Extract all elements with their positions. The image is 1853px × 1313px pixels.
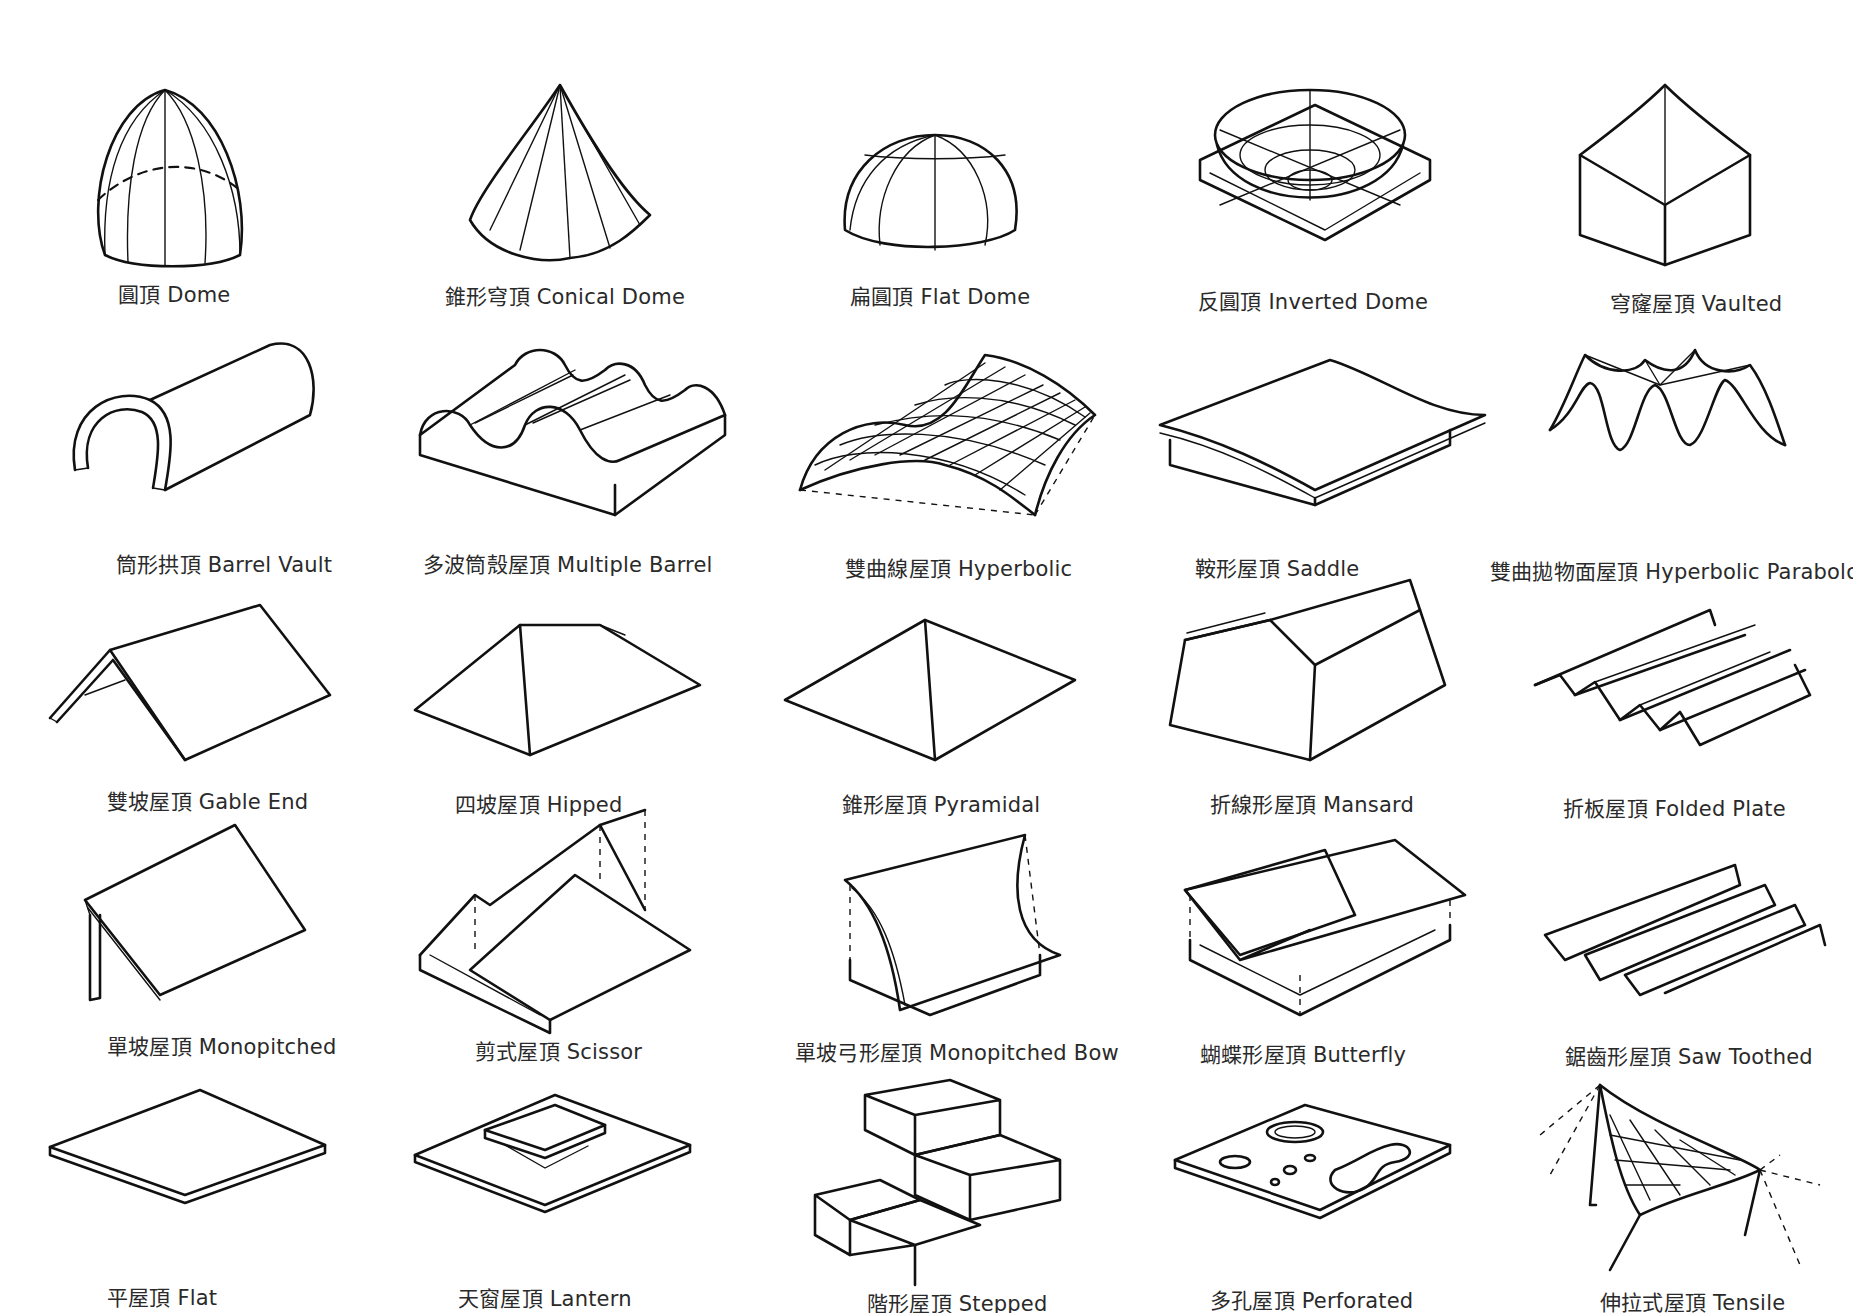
monopitched-bow-icon: [840, 830, 1100, 1020]
roof-item-perforated: 多孔屋頂 Perforated: [1170, 1100, 1540, 1310]
roof-label: 多波筒殼屋頂 Multiple Barrel: [423, 548, 713, 578]
roof-label: 錐形穹頂 Conical Dome: [445, 280, 685, 310]
tensile-roof-icon: [1530, 1075, 1853, 1275]
roof-item-butterfly: 蝴蝶形屋頂 Butterfly: [1180, 835, 1550, 1060]
roof-item-lantern: 天窗屋頂 Lantern: [410, 1090, 780, 1310]
roof-label: 剪式屋頂 Scissor: [475, 1035, 642, 1065]
hipped-roof-icon: [410, 605, 710, 765]
roof-types-chart: 圓頂 Dome 錐形穹頂 Conical Dome 扁圓頂 Flat Dome: [0, 0, 1853, 1313]
roof-item-monopitched: 單坡屋頂 Monopitched: [80, 820, 450, 1060]
saw-toothed-roof-icon: [1540, 865, 1830, 995]
roof-item-barrel-vault: 筒形拱頂 Barrel Vault: [70, 340, 440, 570]
roof-label: 單坡屋頂 Monopitched: [107, 1030, 337, 1060]
roof-item-flat-dome: 扁圓頂 Flat Dome: [835, 120, 1205, 310]
roof-label: 蝴蝶形屋頂 Butterfly: [1200, 1038, 1406, 1068]
roof-label: 雙曲線屋頂 Hyperbolic: [845, 552, 1072, 582]
conical-dome-icon: [460, 80, 700, 280]
inverted-dome-icon: [1195, 85, 1455, 285]
roof-item-dome: 圓頂 Dome: [80, 80, 450, 310]
roof-label: 穹窿屋頂 Vaulted: [1610, 287, 1782, 317]
butterfly-roof-icon: [1180, 835, 1470, 1015]
multiple-barrel-icon: [415, 345, 735, 515]
gable-roof-icon: [45, 600, 345, 770]
roof-item-vaulted: 穹窿屋頂 Vaulted: [1570, 80, 1853, 310]
roof-item-flat: 平屋頂 Flat: [45, 1085, 415, 1310]
roof-label: 雙坡屋頂 Gable End: [107, 785, 308, 815]
roof-item-conical-dome: 錐形穹頂 Conical Dome: [460, 80, 830, 310]
roof-item-inverted-dome: 反圓頂 Inverted Dome: [1195, 85, 1565, 315]
roof-item-hipped: 四坡屋頂 Hipped: [410, 605, 780, 815]
roof-item-stepped: 階形屋頂 Stepped: [810, 1075, 1180, 1310]
roof-label: 折板屋頂 Folded Plate: [1563, 792, 1786, 822]
roof-item-saw-toothed: 鋸齒形屋頂 Saw Toothed: [1540, 865, 1853, 1060]
roof-label: 筒形拱頂 Barrel Vault: [116, 548, 332, 578]
roof-item-pyramidal: 錐形屋頂 Pyramidal: [780, 615, 1150, 815]
roof-label: 平屋頂 Flat: [107, 1281, 217, 1311]
dome-icon: [80, 80, 320, 280]
vaulted-roof-icon: [1570, 80, 1810, 280]
roof-item-hyperbolic: 雙曲線屋頂 Hyperbolic: [795, 345, 1165, 570]
roof-label: 多孔屋頂 Perforated: [1210, 1284, 1413, 1313]
roof-label: 鋸齒形屋頂 Saw Toothed: [1565, 1040, 1813, 1070]
roof-item-folded-plate: 折板屋頂 Folded Plate: [1530, 610, 1853, 815]
roof-label: 圓頂 Dome: [118, 278, 230, 308]
flat-roof-icon: [45, 1085, 335, 1205]
monopitched-roof-icon: [80, 820, 320, 1000]
folded-plate-icon: [1530, 610, 1820, 750]
roof-item-saddle: 鞍形屋頂 Saddle: [1160, 355, 1530, 570]
lantern-roof-icon: [410, 1090, 700, 1210]
roof-label: 折線形屋頂 Mansard: [1210, 788, 1414, 818]
flat-dome-icon: [835, 120, 1075, 280]
roof-label: 天窗屋頂 Lantern: [458, 1282, 632, 1312]
scissor-roof-icon: [415, 805, 705, 1025]
roof-label: 反圓頂 Inverted Dome: [1198, 285, 1428, 315]
roof-label: 階形屋頂 Stepped: [867, 1287, 1047, 1313]
roof-label: 錐形屋頂 Pyramidal: [842, 788, 1040, 818]
saddle-roof-icon: [1160, 355, 1500, 505]
roof-item-multiple-barrel: 多波筒殼屋頂 Multiple Barrel: [415, 345, 785, 570]
pyramidal-roof-icon: [780, 615, 1080, 765]
mansard-roof-icon: [1165, 575, 1455, 775]
roof-item-monopitched-bow: 單坡弓形屋頂 Monopitched Bow: [840, 830, 1210, 1060]
roof-item-gable-end: 雙坡屋頂 Gable End: [45, 600, 415, 815]
roof-label: 伸拉式屋頂 Tensile: [1600, 1286, 1785, 1313]
roof-label: 單坡弓形屋頂 Monopitched Bow: [795, 1036, 1119, 1066]
roof-item-scissor: 剪式屋頂 Scissor: [415, 805, 785, 1060]
roof-item-tensile: 伸拉式屋頂 Tensile: [1530, 1075, 1853, 1310]
hyperbolic-roof-icon: [795, 345, 1115, 535]
roof-label: 雙曲拋物面屋頂 Hyperbolic Parabolo: [1490, 555, 1853, 585]
hyperbolic-paraboloid-icon: [1545, 345, 1805, 465]
perforated-roof-icon: [1170, 1100, 1460, 1220]
roof-item-hyperbolic-paraboloid: 雙曲拋物面屋頂 Hyperbolic Parabolo: [1545, 345, 1853, 570]
roof-item-mansard: 折線形屋頂 Mansard: [1165, 575, 1535, 815]
roof-label: 扁圓頂 Flat Dome: [850, 280, 1030, 310]
barrel-vault-icon: [70, 340, 330, 500]
stepped-roof-icon: [810, 1075, 1080, 1255]
